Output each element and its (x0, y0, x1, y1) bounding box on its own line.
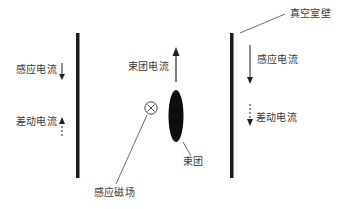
arrow-down-icon (59, 74, 65, 80)
arrow-down-icon (247, 77, 253, 84)
beam-bunch-leader-line (183, 142, 191, 156)
magnetic-field-into-page-icon (145, 102, 157, 114)
arrow-down-icon (247, 119, 253, 126)
arrow-up-icon (173, 47, 180, 56)
chamber-wall-leader-line (240, 14, 285, 33)
beam-current-label: 束团电流 (128, 61, 169, 73)
arrow-up-icon (59, 117, 65, 124)
right-differential-current-arrow (247, 104, 253, 126)
left-differential-current-arrow (59, 117, 65, 138)
right-chamber-wall (230, 33, 234, 178)
right-differential-current-label: 差动电流 (256, 112, 297, 124)
left-chamber-wall (76, 33, 80, 178)
chamber-wall-label: 真空室壁 (290, 8, 331, 20)
left-induced-current-label: 感应电流 (16, 64, 57, 76)
left-differential-current-label: 差动电流 (16, 116, 57, 128)
right-induced-current-label: 感应电流 (257, 54, 298, 66)
beam-current-arrow (173, 47, 180, 82)
diagram-canvas (0, 0, 347, 209)
left-induced-current-arrow (59, 63, 65, 80)
induced-field-label: 感应磁场 (94, 187, 135, 199)
magnetic-field-leader-line (116, 115, 147, 184)
beam-bunch-label: 束团 (183, 156, 203, 168)
right-induced-current-arrow (247, 45, 253, 84)
beam-bunch-ellipse (169, 90, 184, 142)
